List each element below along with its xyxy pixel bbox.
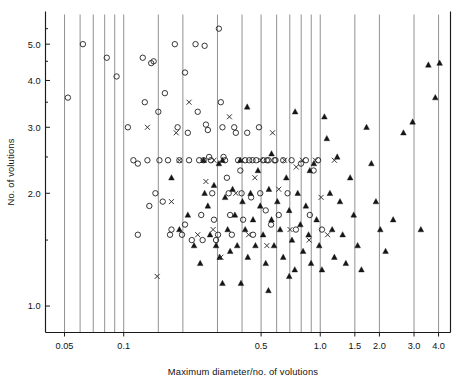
data-point-triangle (306, 232, 312, 237)
data-point-cross (313, 158, 318, 163)
data-point-cross (319, 195, 324, 200)
data-point-circle (172, 41, 177, 46)
data-point-circle (229, 232, 234, 237)
y-axis-title: No. of volutions (5, 138, 16, 205)
data-point-triangle (401, 130, 407, 135)
data-point-triangle (207, 232, 213, 237)
data-point-triangle (343, 260, 349, 265)
data-point-triangle (286, 207, 292, 212)
data-point-circle (169, 227, 174, 232)
data-point-triangle (245, 254, 251, 259)
data-point-triangle (314, 217, 320, 222)
data-point-triangle (297, 221, 303, 226)
data-point-circle (211, 217, 216, 222)
data-point-triangle (410, 119, 416, 124)
data-point-triangle (191, 242, 197, 247)
data-point-triangle (271, 242, 277, 247)
data-point-circle (205, 127, 210, 132)
data-point-triangle (332, 254, 338, 259)
data-point-circle (293, 227, 298, 232)
y-tick-label: 2.0 (28, 189, 41, 199)
data-point-triangle (230, 186, 236, 191)
data-point-triangle (242, 226, 248, 231)
data-point-triangle (437, 60, 443, 65)
data-point-cross (294, 165, 299, 170)
data-point-circle (157, 158, 162, 163)
data-point-cross (195, 232, 200, 237)
data-point-triangle (355, 242, 361, 247)
data-point-triangle (329, 226, 335, 231)
data-point-circle (216, 26, 221, 31)
data-point-triangle (266, 287, 272, 292)
data-point-cross (211, 227, 216, 232)
y-tick-label: 1.0 (28, 301, 41, 311)
data-point-cross (169, 199, 174, 204)
data-point-cross (177, 158, 182, 163)
data-point-cross (264, 243, 269, 248)
data-point-triangle (240, 199, 246, 204)
data-point-triangle (369, 161, 375, 166)
data-point-triangle (202, 190, 208, 195)
data-point-circle (142, 100, 147, 105)
data-point-circle (209, 191, 214, 196)
data-point-triangle (185, 212, 191, 217)
x-tick-label: 1.5 (348, 341, 361, 351)
data-point-circle (162, 90, 167, 95)
data-point-triangle (263, 260, 269, 265)
y-tick-label: 5.0 (28, 40, 41, 50)
data-point-circle (80, 41, 85, 46)
data-point-triangle (266, 186, 272, 191)
data-point-triangle (257, 203, 263, 208)
data-point-cross (155, 274, 160, 279)
data-point-triangle (213, 242, 219, 247)
data-point-triangle (340, 232, 346, 237)
data-point-circle (165, 158, 170, 163)
data-point-triangle (286, 273, 292, 278)
data-point-triangle (295, 190, 301, 195)
data-point-triangle (390, 217, 396, 222)
data-point-triangle (248, 190, 254, 195)
data-point-triangle (364, 124, 370, 129)
data-point-triangle (205, 203, 211, 208)
data-point-circle (218, 100, 223, 105)
x-tick-label: 4.0 (432, 341, 445, 351)
data-point-triangle (277, 226, 283, 231)
data-point-triangle (169, 175, 175, 180)
vertical-gridlines (65, 15, 439, 333)
data-point-triangle (327, 190, 333, 195)
data-point-triangle (337, 199, 343, 204)
data-point-circle (224, 175, 229, 180)
data-point-triangle (244, 104, 250, 109)
data-point-triangle (308, 260, 314, 265)
data-point-triangle (303, 203, 309, 208)
data-point-circle (186, 158, 191, 163)
data-point-circle (65, 95, 70, 100)
y-tick-label: 4.0 (28, 76, 41, 86)
data-point-cross (252, 175, 257, 180)
x-axis-ticks (65, 333, 439, 337)
axis-tick-labels: 1.02.03.04.05.00.050.10.51.01.52.03.04.0 (28, 40, 445, 351)
data-point-circle (232, 125, 237, 130)
data-point-cross (187, 100, 192, 105)
data-point-circle (263, 208, 268, 213)
data-point-triangle (432, 95, 438, 100)
data-point-triangle (316, 242, 322, 247)
data-point-triangle (418, 226, 424, 231)
data-point-triangle (253, 242, 259, 247)
data-point-circle (213, 237, 218, 242)
x-tick-label: 1.0 (314, 341, 327, 351)
data-point-cross (203, 179, 208, 184)
data-point-triangle (211, 182, 217, 187)
data-point-triangle (234, 242, 240, 247)
data-point-triangle (227, 248, 233, 253)
data-point-cross (325, 232, 330, 237)
data-point-circle (250, 158, 255, 163)
x-tick-label: 3.0 (408, 341, 421, 351)
data-point-circle (189, 237, 194, 242)
data-point-triangle (269, 151, 275, 156)
x-tick-label: 2.0 (373, 341, 386, 351)
data-point-circle (140, 55, 145, 60)
data-point-circle (135, 161, 140, 166)
data-point-circle (145, 158, 150, 163)
data-point-cross (300, 158, 305, 163)
